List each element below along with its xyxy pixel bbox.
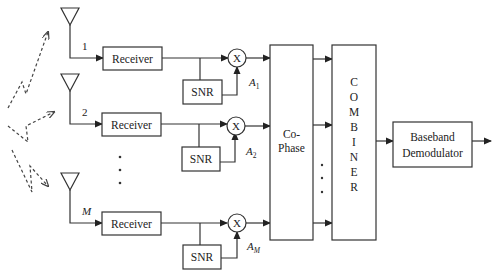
antenna-icon xyxy=(61,173,79,190)
combiner-letter: E xyxy=(350,166,357,178)
combiner-letter: B xyxy=(350,121,358,133)
gain-label: A2 xyxy=(245,145,257,160)
combiner-letter: M xyxy=(349,106,359,118)
antenna-icon xyxy=(61,8,79,25)
multiplier-label: X xyxy=(233,52,241,64)
branch-ellipsis xyxy=(119,156,122,185)
gain-label: A1 xyxy=(248,76,260,91)
antenna-icon xyxy=(61,74,79,91)
cophase-outputs xyxy=(313,59,332,223)
combiner-letter: I xyxy=(352,136,356,148)
demodulator-block: Baseband Demodulator xyxy=(393,122,472,167)
demodulator-label-line2: Demodulator xyxy=(402,147,463,159)
combiner-block: C O M B I N E R xyxy=(332,45,376,240)
cophase-label-line2: Phase xyxy=(278,142,305,154)
receiver-label: Receiver xyxy=(111,119,152,131)
branch-1: 1 Receiver SNR X A1 xyxy=(61,8,270,104)
snr-label: SNR xyxy=(190,153,213,165)
gain-label: AM xyxy=(246,240,261,255)
snr-label: SNR xyxy=(191,251,214,263)
cophase-block: Co- Phase xyxy=(270,45,313,240)
combiner-letter: N xyxy=(350,151,359,163)
combiner-letter: C xyxy=(350,76,358,88)
receiver-label: Receiver xyxy=(112,53,153,65)
branch-index-label: 1 xyxy=(82,40,88,52)
branch-m: M Receiver SNR X AM xyxy=(61,173,270,269)
combiner-letter: O xyxy=(350,91,358,103)
snr-label: SNR xyxy=(191,86,214,98)
combiner-letter: R xyxy=(350,181,358,193)
cophase-label-line1: Co- xyxy=(283,128,300,140)
branch-index-label: 2 xyxy=(82,106,88,118)
receiver-label: Receiver xyxy=(111,218,152,230)
branch-2: 2 Receiver SNR X A2 xyxy=(61,74,270,171)
multiplier-label: X xyxy=(232,120,240,132)
branch-index-label: M xyxy=(81,205,92,217)
multipath-signals xyxy=(8,32,54,192)
multiplier-label: X xyxy=(233,217,241,229)
demodulator-label-line1: Baseband xyxy=(410,131,455,143)
